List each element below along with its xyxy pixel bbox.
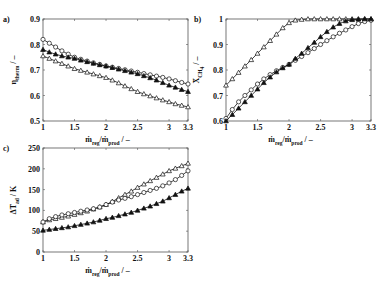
circle-marker [356, 21, 360, 25]
x-tick-label: 1.5 [70, 254, 80, 263]
x-tick-label: 2.5 [133, 123, 143, 132]
open-triangle-marker [141, 182, 146, 186]
x-tick-label: 2 [104, 123, 108, 132]
circle-marker [255, 82, 259, 86]
circle-marker [230, 107, 234, 111]
circle-marker [66, 212, 70, 216]
y-tick-label: 50 [32, 227, 40, 236]
y-axis-label: X̄CH4 / – [192, 56, 205, 84]
filled-triangle-marker [160, 199, 165, 203]
circle-marker [337, 31, 341, 35]
circle-marker [243, 93, 247, 97]
y-tick-label: 200 [28, 165, 40, 174]
x-tick-label: 1.5 [253, 123, 263, 132]
x-axis-label: ṁreg/ṁprod / – [85, 266, 131, 277]
circle-marker [350, 25, 354, 29]
open-triangle-marker [129, 86, 134, 90]
series-line [43, 50, 188, 92]
series-line [43, 171, 188, 222]
y-tick-label: 0.6 [30, 92, 40, 101]
circle-marker [173, 79, 177, 83]
x-tick-label: 2 [287, 123, 291, 132]
circle-marker [154, 186, 158, 190]
y-tick-label: 0.5 [30, 117, 40, 126]
circle-marker [180, 80, 184, 84]
circle-marker [325, 39, 329, 43]
circle-marker [173, 178, 177, 182]
figure: 11.522.533.30.50.60.70.80.9a)ṁreg/ṁprod … [0, 0, 383, 290]
x-axis-label: ṁreg/ṁprod / – [268, 135, 314, 146]
panel-label: a) [3, 15, 10, 24]
y-tick-label: 0.9 [213, 41, 223, 50]
circle-marker [249, 88, 253, 92]
subplot-c: 11.522.533.3050100150200250c)ṁreg/ṁprod … [3, 144, 193, 277]
x-tick-label: 1 [41, 254, 45, 263]
circle-marker [110, 200, 114, 204]
x-tick-label: 1.5 [70, 123, 80, 132]
circle-marker [167, 77, 171, 81]
x-tick-label: 3.3 [183, 123, 193, 132]
series-line [226, 20, 371, 118]
circle-marker [161, 75, 165, 79]
axes-frame [226, 19, 371, 121]
y-tick-label: 150 [28, 186, 40, 195]
circle-marker [54, 45, 58, 49]
series-line [226, 19, 371, 121]
x-tick-label: 1 [224, 123, 228, 132]
circle-marker [117, 198, 121, 202]
y-tick-label: 0.8 [30, 41, 40, 50]
x-tick-label: 3 [167, 123, 171, 132]
filled-triangle-marker [324, 29, 329, 33]
circle-marker [306, 51, 310, 55]
open-triangle-marker [123, 192, 128, 196]
x-tick-label: 2.5 [316, 123, 326, 132]
circle-marker [331, 35, 335, 39]
circle-marker [85, 208, 89, 212]
circle-marker [41, 220, 45, 224]
circle-marker [60, 213, 64, 217]
circle-marker [142, 190, 146, 194]
circle-marker [344, 28, 348, 32]
series-line [43, 56, 188, 107]
y-tick-label: 0.6 [213, 117, 223, 126]
y-axis-label: ΔT̄ad / K [9, 185, 20, 214]
circle-marker [237, 100, 241, 104]
open-triangle-marker [135, 89, 140, 93]
circle-marker [318, 42, 322, 46]
circle-marker [47, 41, 51, 45]
x-tick-label: 3 [167, 254, 171, 263]
series-line [43, 188, 188, 230]
axes-frame [43, 19, 188, 121]
circle-marker [47, 217, 51, 221]
x-axis-label: ṁreg/ṁprod / – [85, 135, 131, 146]
circle-marker [161, 184, 165, 188]
circle-marker [180, 173, 184, 177]
open-triangle-marker [123, 84, 128, 88]
x-tick-label: 2.5 [133, 254, 143, 263]
filled-triangle-marker [186, 186, 191, 190]
x-tick-label: 1 [41, 123, 45, 132]
subplot-b: 11.522.533.30.60.70.80.91b)ṁreg/ṁprod / … [192, 15, 376, 146]
filled-triangle-marker [331, 25, 336, 29]
y-tick-label: 0.8 [213, 66, 223, 75]
circle-marker [312, 46, 316, 50]
circle-marker [54, 215, 58, 219]
circle-marker [41, 37, 45, 41]
open-triangle-marker [135, 185, 140, 189]
open-triangle-marker [41, 54, 46, 58]
open-triangle-marker [129, 189, 134, 193]
y-tick-label: 0 [36, 248, 40, 257]
y-tick-label: 100 [28, 206, 40, 215]
circle-marker [98, 205, 102, 209]
open-triangle-marker [160, 172, 165, 176]
filled-triangle-marker [179, 189, 184, 193]
x-tick-label: 3 [350, 123, 354, 132]
y-tick-label: 1 [219, 15, 223, 24]
circle-marker [79, 209, 83, 213]
y-tick-label: 0.7 [30, 66, 40, 75]
circle-marker [91, 207, 95, 211]
x-tick-label: 3.3 [366, 123, 376, 132]
circle-marker [186, 82, 190, 86]
x-tick-label: 2 [104, 254, 108, 263]
circle-marker [60, 49, 64, 53]
